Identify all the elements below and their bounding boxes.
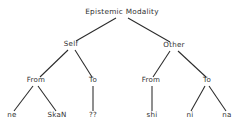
tree-node-self: Self (64, 39, 79, 48)
tree-node-other-from: From (142, 75, 161, 84)
tree-node-self-from: From (27, 75, 46, 84)
tree-node-leaf-na: na (222, 110, 231, 119)
tree-node-other-to: To (202, 75, 211, 84)
figure-background (0, 0, 245, 124)
tree-node-other: Other (163, 40, 184, 49)
tree-node-leaf-shi: shi (147, 110, 158, 119)
tree-node-leaf-skan: SkaN (47, 110, 66, 119)
tree-diagram-canvas: Epistemic ModalitySelfOtherFromToFromTon… (0, 0, 245, 124)
epistemic-modality-tree-figure: Epistemic ModalitySelfOtherFromToFromTon… (0, 0, 245, 124)
tree-node-leaf-ne: ne (7, 110, 16, 119)
tree-node-root: Epistemic Modality (85, 7, 159, 16)
tree-node-leaf-qq: ?? (89, 110, 97, 119)
tree-node-self-to: To (88, 75, 97, 84)
tree-node-leaf-ni: ni (187, 110, 194, 119)
